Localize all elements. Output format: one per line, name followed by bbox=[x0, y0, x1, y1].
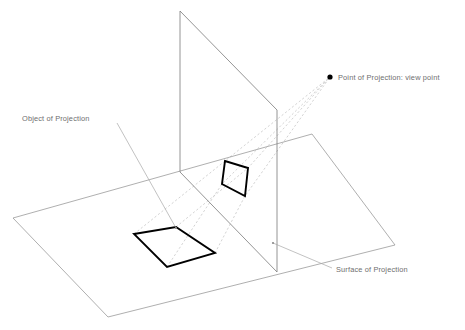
object-leader-dot-icon bbox=[175, 227, 177, 229]
projection-rays-group bbox=[134, 77, 330, 267]
ground-plane-outline bbox=[13, 134, 395, 317]
object-quad bbox=[134, 227, 215, 267]
surface-leader-dot-icon bbox=[272, 242, 274, 244]
view-point-annotation: Point of Projection: view point bbox=[327, 73, 439, 82]
projection-ray-3 bbox=[215, 77, 330, 253]
projection-ray-2 bbox=[176, 77, 330, 227]
diagram-canvas: Point of Projection: view point Object o… bbox=[0, 0, 465, 330]
object-quad-outline bbox=[134, 227, 215, 267]
surface-label: Surface of Projection bbox=[336, 265, 408, 274]
projection-plane bbox=[180, 11, 277, 272]
view-point-dot-icon bbox=[327, 74, 332, 79]
ground-plane bbox=[13, 134, 395, 317]
object-annotation: Object of Projection bbox=[22, 114, 177, 229]
perspective-projection-diagram: Point of Projection: view point Object o… bbox=[0, 0, 465, 330]
object-label: Object of Projection bbox=[22, 114, 90, 123]
surface-leader-line bbox=[273, 243, 332, 268]
projection-plane-outline bbox=[180, 11, 277, 272]
object-leader-line bbox=[117, 123, 176, 228]
view-point-label: Point of Projection: view point bbox=[338, 73, 440, 82]
projection-ray-1 bbox=[134, 77, 330, 234]
